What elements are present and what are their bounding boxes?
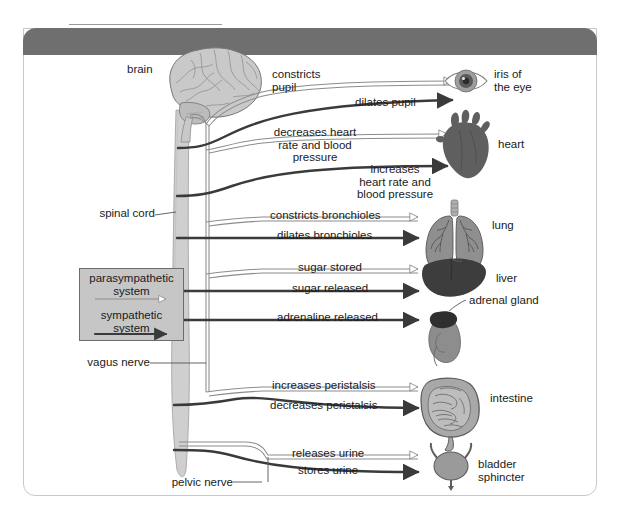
effect-heart-symp-line1: increases	[370, 163, 419, 175]
label-spinal-cord: spinal cord	[60, 207, 155, 220]
effect-heart-para-line2: rate and blood	[278, 139, 352, 151]
effect-eye-sympathetic: dilates pupil	[355, 96, 416, 109]
figure-container: Figure 3.30: The autonomic nervous syste…	[0, 0, 621, 517]
label-brain: brain	[127, 63, 153, 76]
label-eye: iris of the eye	[494, 68, 532, 93]
effect-heart-sympathetic: increases heart rate and blood pressure	[330, 163, 460, 201]
effect-lung-parasympathetic: constricts bronchioles	[270, 209, 381, 222]
effect-eye-parasympathetic: constricts pupil	[272, 68, 321, 93]
effect-intestine-sympathetic: decreases peristalsis	[270, 399, 377, 412]
label-eye-line2: the eye	[494, 81, 532, 93]
effect-adrenal-sympathetic: adrenaline released	[277, 311, 378, 324]
effect-bladder-parasympathetic: releases urine	[292, 447, 364, 460]
label-adrenal-gland: adrenal gland	[469, 294, 539, 307]
effect-heart-symp-line3: blood pressure	[357, 188, 433, 200]
label-eye-line1: iris of	[494, 68, 521, 80]
label-liver: liver	[496, 272, 517, 285]
label-bladder-sphincter: bladder sphincter	[478, 458, 525, 483]
effect-lung-sympathetic: dilates bronchioles	[277, 229, 372, 242]
effect-liver-parasympathetic: sugar stored	[298, 261, 362, 274]
effect-heart-parasympathetic: decreases heart rate and blood pressure	[250, 126, 380, 164]
label-heart: heart	[498, 138, 524, 151]
effect-heart-para-line1: decreases heart	[274, 126, 356, 138]
label-lung: lung	[492, 219, 514, 232]
label-intestine: intestine	[490, 392, 533, 405]
label-bladder-line1: bladder	[478, 458, 516, 470]
effect-heart-para-line3: pressure	[293, 151, 338, 163]
effect-heart-symp-line2: heart rate and	[359, 176, 431, 188]
effect-eye-para-line1: constricts	[272, 68, 321, 80]
effect-liver-sympathetic: sugar released	[292, 282, 368, 295]
label-vagus-nerve: vagus nerve	[55, 356, 150, 369]
effect-bladder-sympathetic: stores urine	[298, 464, 358, 477]
effect-intestine-parasympathetic: increases peristalsis	[272, 379, 376, 392]
effect-eye-para-line2: pupil	[272, 81, 296, 93]
label-pelvic-nerve: pelvic nerve	[148, 476, 233, 489]
label-bladder-line2: sphincter	[478, 471, 525, 483]
